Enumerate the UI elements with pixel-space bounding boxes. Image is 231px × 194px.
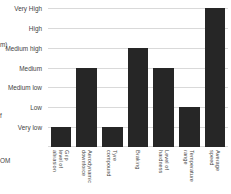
bar-chart: m) f OM Very HighHighMedium highMediumMe… [0,0,231,194]
x-axis-category-label: Level of hardness [158,150,170,173]
y-axis-tick-label: High [29,24,42,31]
bar-slot [202,8,228,147]
x-axis-category-label: Temperature range [183,150,195,182]
x-axis-category-label: Average speed [209,150,221,171]
y-axis-tick-label: Very High [14,5,42,12]
bar[interactable] [51,127,72,147]
y-axis-tick-label: Medium low [8,84,42,91]
x-axis-category-label: Braking [135,150,141,169]
bar-series [48,8,228,147]
y-axis-tick-label: Very low [18,124,42,131]
bar[interactable] [128,48,149,147]
y-axis-tick-labels: Very HighHighMedium highMediumMedium low… [0,8,45,147]
y-axis-tick-label: Medium high [5,44,42,51]
bar-slot [74,8,100,147]
x-axis-category-labels: Grip level of abrasionAerodynamic downfo… [48,149,228,194]
bar-slot [99,8,125,147]
bar-slot [151,8,177,147]
bar[interactable] [179,107,200,147]
bar[interactable] [76,68,97,147]
x-label-slot: Average speed [202,149,228,194]
y-axis-tick-label: Low [30,104,42,111]
x-label-slot: Aerodynamic downforce [74,149,100,194]
x-axis-category-label: Tyre compound [106,150,118,177]
x-axis-category-label: Grip level of abrasion [52,150,71,172]
bar-slot [48,8,74,147]
y-axis-tick-label: Medium [19,64,42,71]
x-label-slot: Braking [125,149,151,194]
plot-area [48,8,228,147]
x-label-slot: Temperature range [177,149,203,194]
bar-slot [125,8,151,147]
bar[interactable] [153,68,174,147]
x-label-slot: Grip level of abrasion [48,149,74,194]
bar-slot [177,8,203,147]
bar[interactable] [205,8,226,147]
clipped-axis-title-lower: OM [0,157,10,164]
x-label-slot: Level of hardness [151,149,177,194]
bar[interactable] [102,127,123,147]
x-axis-category-label: Aerodynamic downforce [80,150,92,183]
x-label-slot: Tyre compound [99,149,125,194]
